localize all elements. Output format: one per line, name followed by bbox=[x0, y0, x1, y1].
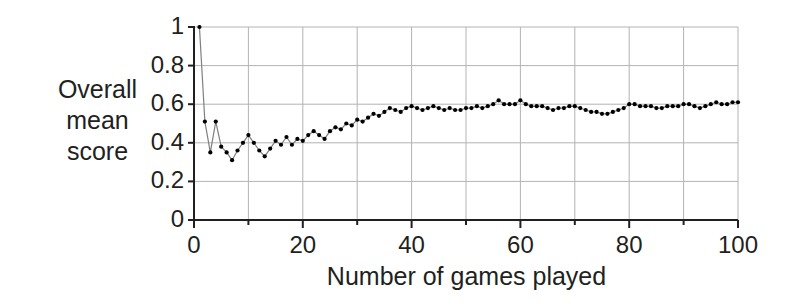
data-point-marker bbox=[692, 104, 696, 108]
data-point-marker bbox=[366, 116, 370, 120]
x-axis-tick-label: 40 bbox=[372, 231, 452, 259]
data-point-marker bbox=[573, 104, 577, 108]
y-axis-label-line-3: score bbox=[30, 136, 165, 167]
data-point-marker bbox=[562, 106, 566, 110]
data-point-marker bbox=[426, 106, 430, 110]
data-point-marker bbox=[497, 98, 501, 102]
data-point-marker bbox=[225, 150, 229, 154]
data-point-marker bbox=[410, 104, 414, 108]
data-point-marker bbox=[649, 104, 653, 108]
data-point-marker bbox=[203, 119, 207, 123]
data-point-marker bbox=[377, 114, 381, 118]
data-point-marker bbox=[709, 102, 713, 106]
data-point-marker bbox=[638, 104, 642, 108]
data-point-marker bbox=[584, 108, 588, 112]
data-point-marker bbox=[703, 104, 707, 108]
data-point-marker bbox=[448, 106, 452, 110]
data-point-marker bbox=[399, 110, 403, 114]
data-point-marker bbox=[594, 110, 598, 114]
data-point-marker bbox=[284, 135, 288, 139]
y-axis-label-line-2: mean bbox=[30, 105, 165, 136]
data-point-marker bbox=[235, 148, 239, 152]
data-point-marker bbox=[268, 146, 272, 150]
y-axis-tick-label: 0.4 bbox=[151, 128, 184, 156]
series-markers bbox=[197, 25, 740, 162]
data-point-marker bbox=[458, 108, 462, 112]
data-point-marker bbox=[720, 102, 724, 106]
data-point-marker bbox=[665, 104, 669, 108]
data-point-marker bbox=[317, 133, 321, 137]
data-point-marker bbox=[230, 158, 234, 162]
data-point-marker bbox=[214, 119, 218, 123]
data-point-marker bbox=[589, 110, 593, 114]
data-point-marker bbox=[290, 143, 294, 147]
data-point-marker bbox=[274, 139, 278, 143]
data-point-marker bbox=[551, 108, 555, 112]
data-point-marker bbox=[442, 108, 446, 112]
data-point-marker bbox=[295, 137, 299, 141]
data-point-marker bbox=[437, 106, 441, 110]
data-point-marker bbox=[361, 119, 365, 123]
data-point-marker bbox=[535, 104, 539, 108]
data-point-marker bbox=[197, 25, 201, 29]
data-point-marker bbox=[263, 154, 267, 158]
data-point-marker bbox=[246, 133, 250, 137]
data-point-marker bbox=[736, 100, 740, 104]
y-axis-tick-label: 1 bbox=[171, 12, 184, 40]
data-point-marker bbox=[622, 106, 626, 110]
data-point-marker bbox=[513, 102, 517, 106]
data-point-marker bbox=[518, 98, 522, 102]
data-point-marker bbox=[611, 110, 615, 114]
y-axis-tick-label: 0.8 bbox=[151, 51, 184, 79]
x-axis-label: Number of games played bbox=[194, 262, 739, 291]
data-point-marker bbox=[420, 108, 424, 112]
data-point-marker bbox=[725, 102, 729, 106]
data-point-marker bbox=[507, 102, 511, 106]
data-point-marker bbox=[486, 104, 490, 108]
grid-lines bbox=[194, 27, 738, 220]
data-point-marker bbox=[730, 100, 734, 104]
data-point-marker bbox=[633, 102, 637, 106]
data-point-marker bbox=[567, 104, 571, 108]
data-point-marker bbox=[654, 106, 658, 110]
data-point-marker bbox=[627, 102, 631, 106]
x-axis-tick-label: 20 bbox=[263, 231, 343, 259]
data-point-marker bbox=[371, 112, 375, 116]
data-point-marker bbox=[714, 100, 718, 104]
data-point-marker bbox=[529, 104, 533, 108]
data-point-marker bbox=[344, 121, 348, 125]
data-point-marker bbox=[578, 106, 582, 110]
series-line bbox=[199, 27, 738, 160]
data-point-marker bbox=[464, 106, 468, 110]
data-point-marker bbox=[388, 106, 392, 110]
data-point-marker bbox=[322, 137, 326, 141]
data-point-marker bbox=[350, 123, 354, 127]
data-point-marker bbox=[682, 102, 686, 106]
data-point-marker bbox=[393, 108, 397, 112]
data-point-marker bbox=[600, 112, 604, 116]
data-point-marker bbox=[382, 110, 386, 114]
y-axis-tick-label: 0.6 bbox=[151, 89, 184, 117]
data-point-marker bbox=[469, 106, 473, 110]
data-point-marker bbox=[453, 108, 457, 112]
data-point-marker bbox=[556, 106, 560, 110]
data-point-marker bbox=[301, 139, 305, 143]
data-point-marker bbox=[524, 102, 528, 106]
x-axis-tick-label: 0 bbox=[154, 231, 234, 259]
data-point-marker bbox=[219, 145, 223, 149]
data-point-marker bbox=[540, 104, 544, 108]
data-point-marker bbox=[328, 129, 332, 133]
data-point-marker bbox=[355, 118, 359, 122]
data-point-marker bbox=[252, 141, 256, 145]
data-point-marker bbox=[605, 112, 609, 116]
y-axis-tick-label: 0.2 bbox=[151, 166, 184, 194]
data-point-marker bbox=[491, 102, 495, 106]
data-point-marker bbox=[415, 106, 419, 110]
data-point-marker bbox=[475, 104, 479, 108]
data-point-marker bbox=[480, 106, 484, 110]
data-point-marker bbox=[676, 104, 680, 108]
data-point-marker bbox=[404, 106, 408, 110]
y-axis-tick-label: 0 bbox=[171, 205, 184, 233]
y-axis-label: Overall mean score bbox=[30, 74, 165, 167]
data-point-marker bbox=[671, 104, 675, 108]
